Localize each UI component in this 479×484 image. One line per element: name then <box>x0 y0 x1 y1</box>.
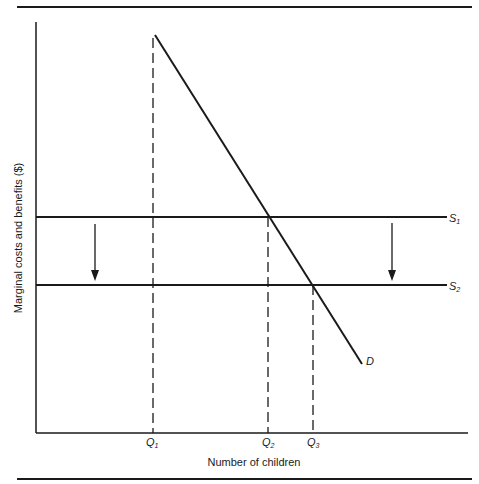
down-arrow-right-icon <box>388 223 396 281</box>
s1-label: S1 <box>449 212 460 225</box>
x-axis-title: Number of children <box>208 456 301 468</box>
demand-line <box>155 35 362 364</box>
economics-diagram: S1 S2 D Q1 Q2 Q3 Number of children Marg… <box>0 0 479 484</box>
s2-label: S2 <box>449 280 460 293</box>
down-arrow-left-icon <box>91 224 99 281</box>
demand-label: D <box>366 355 374 367</box>
y-axis-title: Marginal costs and benefits ($) <box>12 163 24 313</box>
q1-label: Q1 <box>146 436 159 449</box>
q2-label: Q2 <box>262 436 275 449</box>
q3-label: Q3 <box>307 436 320 449</box>
